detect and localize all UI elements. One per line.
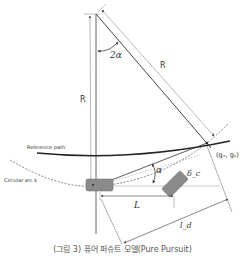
lookahead-ext-left (101, 199, 122, 244)
radius-diagonal-dimension (102, 10, 214, 136)
rear-axle-point (92, 184, 94, 186)
angle-alpha-arc (152, 164, 155, 183)
lookahead-label: l_d (180, 221, 192, 230)
top-diag-tick (98, 4, 106, 12)
vehicle-rear-body (86, 179, 113, 191)
reference-path-label: Reference path (27, 144, 65, 151)
circular-arc-label: Circular arc k (4, 177, 37, 183)
wheelbase-label: L (133, 200, 140, 210)
vehicle-front-wheel (162, 171, 189, 198)
radius-diagonal-line (96, 14, 211, 148)
goal-point-label: (gₓ, gᵧ) (216, 151, 239, 159)
angle-2alpha-label: 2α (109, 50, 122, 60)
angle-alpha-label: α (156, 165, 162, 175)
radius-vertical-label: R (80, 95, 86, 104)
goal-point (206, 142, 208, 144)
radius-diagonal-label: R (160, 61, 166, 70)
reference-path-curve (37, 141, 230, 156)
figure-caption: (그림 3) 퓨어 퍼슈트 모델(Pure Pursuit) (0, 243, 245, 254)
steering-angle-label: δ_c (187, 169, 201, 178)
pure-pursuit-diagram: 2α R R Reference path Circular arc k α (… (0, 0, 245, 256)
